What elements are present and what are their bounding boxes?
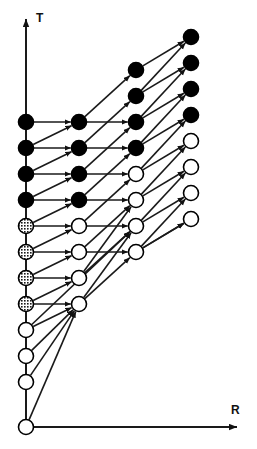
- transition-arrow: [29, 312, 76, 420]
- open-node: [19, 323, 34, 338]
- nodes-layer: [19, 30, 199, 435]
- transition-arrow: [143, 93, 184, 118]
- transition-arrow: [141, 147, 185, 194]
- open-node: [72, 219, 87, 234]
- transition-arrow: [33, 126, 71, 145]
- open-node: [129, 245, 144, 260]
- filled-node: [72, 141, 87, 156]
- filled-node: [19, 115, 34, 130]
- transition-arrow: [143, 197, 184, 222]
- transition-arrow: [143, 171, 184, 196]
- r-axis-label: R: [231, 403, 240, 417]
- transition-arrow: [141, 199, 185, 246]
- open-node: [72, 245, 87, 260]
- hatched-node: [19, 245, 34, 260]
- lattice-diagram-svg: TR: [0, 0, 257, 449]
- filled-node: [72, 167, 87, 182]
- open-node: [72, 297, 87, 312]
- transition-arrow: [33, 256, 71, 275]
- transition-arrow: [33, 230, 71, 249]
- filled-node: [129, 63, 144, 78]
- filled-node: [72, 193, 87, 208]
- edges-layer: [29, 41, 185, 419]
- open-node: [184, 134, 199, 149]
- transition-arrow: [143, 41, 184, 66]
- transition-arrow: [85, 258, 130, 299]
- transition-arrow: [141, 121, 185, 168]
- filled-node: [184, 108, 199, 123]
- filled-node: [184, 30, 199, 45]
- transition-arrow: [33, 152, 71, 171]
- transition-arrow: [33, 282, 71, 301]
- open-node: [72, 271, 87, 286]
- transition-arrow: [141, 95, 185, 142]
- open-node: [19, 375, 34, 390]
- transition-arrow: [84, 207, 131, 272]
- transition-arrow: [143, 145, 184, 170]
- filled-node: [129, 89, 144, 104]
- transition-arrow: [33, 204, 71, 223]
- transition-arrow: [85, 76, 130, 117]
- open-node: [19, 349, 34, 364]
- hatched-node: [19, 297, 34, 312]
- open-node: [184, 186, 199, 201]
- diagram-canvas: TR: [0, 0, 257, 449]
- transition-arrow: [141, 173, 185, 220]
- open-node: [129, 167, 144, 182]
- transition-arrow: [143, 119, 184, 144]
- open-node: [184, 160, 199, 175]
- t-axis-label: T: [36, 11, 44, 25]
- filled-node: [19, 193, 34, 208]
- open-node: [129, 219, 144, 234]
- filled-node: [129, 141, 144, 156]
- transition-arrow: [143, 223, 184, 248]
- transition-arrow: [84, 233, 131, 298]
- open-node: [19, 420, 34, 435]
- filled-node: [19, 167, 34, 182]
- transition-arrow: [141, 43, 185, 90]
- filled-node: [129, 115, 144, 130]
- hatched-node: [19, 271, 34, 286]
- transition-arrow: [141, 69, 185, 116]
- filled-node: [184, 56, 199, 71]
- filled-node: [72, 115, 87, 130]
- filled-node: [19, 141, 34, 156]
- transition-arrow: [33, 178, 71, 197]
- filled-node: [184, 82, 199, 97]
- hatched-node: [19, 219, 34, 234]
- open-node: [129, 193, 144, 208]
- transition-arrow: [143, 67, 184, 92]
- open-node: [184, 212, 199, 227]
